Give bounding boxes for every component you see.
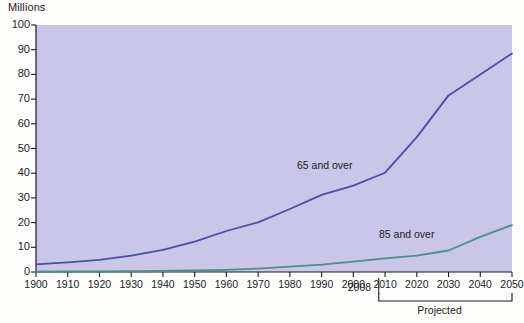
y-tick-label: 0 — [0, 266, 30, 277]
x-axis-ticks — [36, 272, 512, 277]
series-label-65-and-over: 65 and over — [297, 159, 352, 171]
axis-lines — [36, 25, 512, 272]
y-tick-label: 30 — [0, 192, 30, 203]
x-tick-label: 2050 — [492, 279, 524, 290]
annotation-label-projected: Projected — [417, 304, 461, 316]
series-lines — [36, 53, 512, 271]
series-line — [36, 53, 512, 264]
annotation-label-2008: 2008 — [348, 281, 371, 293]
series-line — [36, 225, 512, 272]
y-tick-label: 70 — [0, 93, 30, 104]
y-tick-label: 20 — [0, 217, 30, 228]
chart-canvas — [0, 0, 524, 323]
y-tick-label: 60 — [0, 118, 30, 129]
projected-bracket-line — [379, 293, 512, 301]
y-tick-label: 90 — [0, 44, 30, 55]
y-tick-label: 10 — [0, 241, 30, 252]
y-tick-label: 80 — [0, 68, 30, 79]
series-label-85-and-over: 85 and over — [379, 228, 434, 240]
y-tick-label: 40 — [0, 167, 30, 178]
y-tick-label: 100 — [0, 19, 30, 30]
chart-figure: Millions 0102030405060708090100 19001910… — [0, 0, 524, 323]
y-axis-ticks — [31, 25, 36, 272]
y-tick-label: 50 — [0, 143, 30, 154]
